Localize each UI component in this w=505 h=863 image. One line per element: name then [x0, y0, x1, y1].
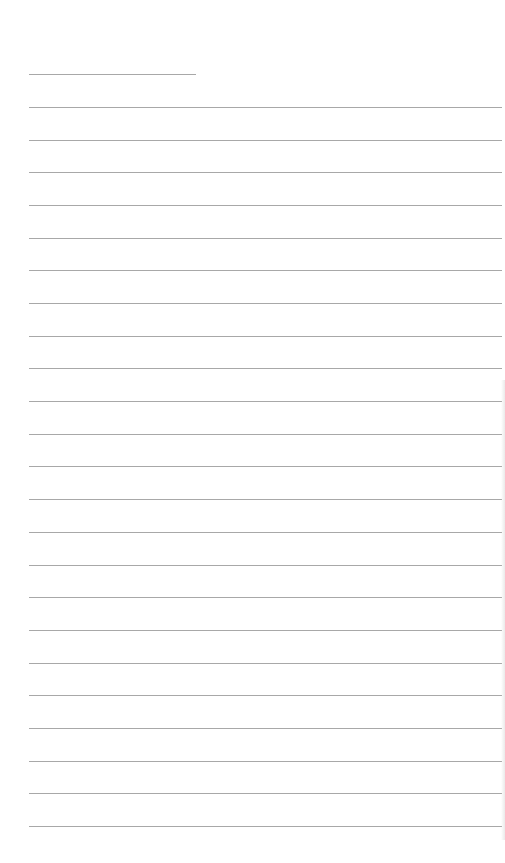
ruled-line: [29, 238, 502, 239]
ruled-line: [29, 826, 502, 827]
ruled-line: [29, 597, 502, 598]
ruled-line: [29, 565, 502, 566]
ruled-line: [29, 663, 502, 664]
ruled-line: [29, 368, 502, 369]
ruled-line: [29, 532, 502, 533]
ruled-line: [29, 499, 502, 500]
ruled-line: [29, 793, 502, 794]
ruled-line: [29, 695, 502, 696]
ruled-line: [29, 728, 502, 729]
ruled-line: [29, 336, 502, 337]
header-line: [29, 74, 196, 75]
ruled-line: [29, 107, 502, 108]
ruled-line: [29, 140, 502, 141]
lined-paper-page: [0, 0, 505, 863]
ruled-line: [29, 172, 502, 173]
ruled-line: [29, 761, 502, 762]
ruled-line: [29, 466, 502, 467]
ruled-line: [29, 303, 502, 304]
page-edge-shadow: [501, 380, 505, 840]
ruled-line: [29, 401, 502, 402]
ruled-line: [29, 205, 502, 206]
ruled-line: [29, 630, 502, 631]
ruled-line: [29, 434, 502, 435]
ruled-line: [29, 270, 502, 271]
